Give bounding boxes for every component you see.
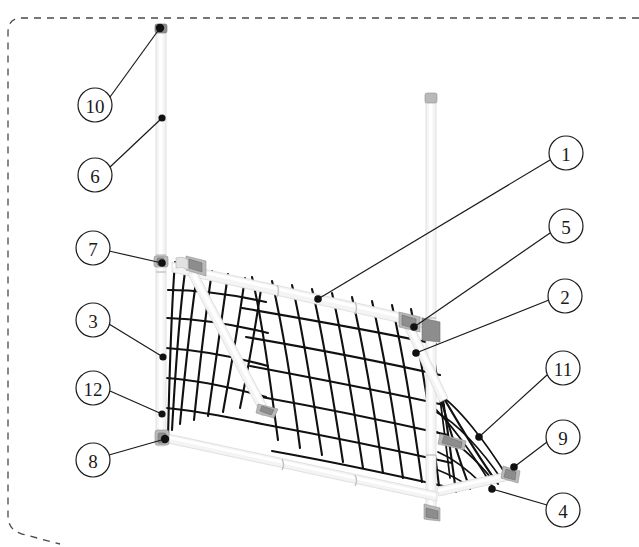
drawing-canvas: 106731281521194 xyxy=(0,0,639,547)
callout-8-leader-line xyxy=(109,439,165,455)
callout-10[interactable]: 10 xyxy=(78,24,164,122)
callout-9[interactable]: 9 xyxy=(510,420,580,471)
right-pole-foot xyxy=(424,504,440,521)
callout-6[interactable]: 6 xyxy=(78,114,166,192)
bottom-brace-joint xyxy=(256,404,278,418)
callout-11-leader-line xyxy=(479,375,547,437)
callout-2-leader-dot xyxy=(412,349,420,357)
callout-3-leader-dot xyxy=(159,353,166,360)
callout-3-label: 3 xyxy=(88,311,98,332)
callout-7-leader-dot xyxy=(158,259,166,267)
callout-9-label: 9 xyxy=(558,428,568,449)
callout-4[interactable]: 4 xyxy=(488,485,580,527)
front-ground-bar xyxy=(168,434,437,501)
callout-6-leader-line xyxy=(110,118,162,167)
callout-3-leader-line xyxy=(109,324,163,357)
right-upright-pole xyxy=(426,95,436,520)
callout-2[interactable]: 2 xyxy=(412,279,582,357)
callout-5-leader-dot xyxy=(410,323,418,331)
right-pole-top-cap xyxy=(425,93,437,103)
callout-10-leader-dot xyxy=(156,24,164,32)
callout-9-leader-dot xyxy=(510,463,518,471)
right-post-collar xyxy=(422,318,440,342)
callout-11-leader-dot xyxy=(475,433,483,441)
callout-5-label: 5 xyxy=(561,217,571,238)
callout-2-label: 2 xyxy=(560,287,570,308)
callout-8-leader-dot xyxy=(161,435,169,443)
callout-1-label: 1 xyxy=(561,144,571,165)
callout-1-leader-dot xyxy=(314,295,322,303)
callout-9-leader-line xyxy=(514,442,547,467)
callout-4-leader-line xyxy=(492,489,547,505)
callout-layer: 106731281521194 xyxy=(76,24,583,527)
callout-4-leader-dot xyxy=(488,485,496,493)
technical-figure: 106731281521194 xyxy=(0,0,639,547)
callout-7-label: 7 xyxy=(88,239,98,260)
callout-12-label: 12 xyxy=(84,379,103,400)
callout-3[interactable]: 3 xyxy=(76,303,167,361)
callout-11-label: 11 xyxy=(554,359,572,380)
callout-6-label: 6 xyxy=(90,166,100,187)
callout-7[interactable]: 7 xyxy=(76,231,166,267)
left-back-brace xyxy=(188,270,270,416)
callout-4-label: 4 xyxy=(558,501,568,522)
callout-12-leader-dot xyxy=(158,410,165,417)
callout-6-leader-dot xyxy=(158,114,165,121)
callout-10-leader-line xyxy=(110,28,160,97)
left-upright-pole xyxy=(156,28,166,446)
callout-1[interactable]: 1 xyxy=(314,136,583,303)
callout-8-label: 8 xyxy=(88,451,98,472)
callout-10-label: 10 xyxy=(86,96,105,117)
callout-12-leader-line xyxy=(110,391,162,414)
callout-12[interactable]: 12 xyxy=(76,371,166,418)
